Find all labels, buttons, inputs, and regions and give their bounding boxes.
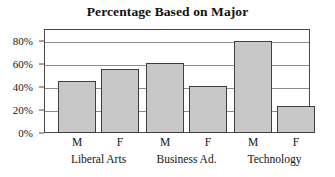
y-tick-label: 40% [13, 81, 33, 93]
x-group-label: Technology [247, 153, 301, 165]
bar [189, 86, 227, 133]
y-tick-label: 0% [18, 127, 33, 139]
x-axis-group-labels: Liberal ArtsBusiness Ad.Technology [44, 153, 310, 171]
bar [234, 41, 272, 133]
x-series-label: M [248, 136, 258, 148]
x-axis-series-labels: MFMFMF [44, 136, 310, 152]
y-tick-label: 20% [13, 104, 33, 116]
x-series-label: F [293, 136, 299, 148]
y-tick-label: 80% [13, 35, 33, 47]
chart-title: Percentage Based on Major [0, 4, 335, 20]
bar [146, 63, 184, 133]
x-series-label: M [72, 136, 82, 148]
bars-layer [44, 29, 310, 133]
bar [58, 81, 96, 133]
x-group-label: Liberal Arts [71, 153, 126, 165]
bar [101, 69, 139, 133]
bar [277, 106, 315, 133]
y-axis: 0%20%40%60%80% [0, 29, 40, 133]
x-series-label: F [205, 136, 211, 148]
x-series-label: F [117, 136, 123, 148]
y-tick-label: 60% [13, 58, 33, 70]
x-group-label: Business Ad. [156, 153, 216, 165]
x-series-label: M [160, 136, 170, 148]
bar-chart-figure: Percentage Based on Major 0%20%40%60%80%… [0, 0, 335, 177]
